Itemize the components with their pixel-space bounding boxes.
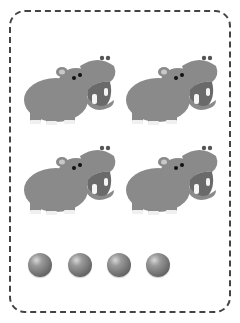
hippo-icon: [120, 48, 220, 128]
ball-icon: [28, 253, 52, 277]
hippo-icon: [18, 48, 118, 128]
hippo-icon: [120, 138, 220, 218]
hippo-icon: [18, 138, 118, 218]
ball-icon: [68, 253, 92, 277]
ball-icon: [107, 253, 131, 277]
ball-icon: [146, 253, 170, 277]
